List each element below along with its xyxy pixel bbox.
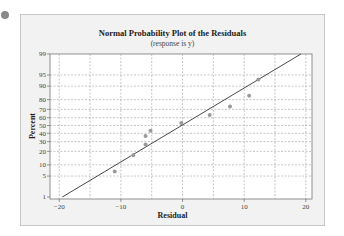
data-point	[144, 143, 148, 147]
y-tick-label: 60	[39, 114, 47, 122]
data-point	[208, 113, 212, 117]
y-tick-label: 1	[43, 193, 47, 201]
y-tick-label: 50	[39, 122, 47, 130]
x-tick-label: −20	[54, 203, 65, 211]
data-point	[113, 170, 117, 174]
data-point	[131, 153, 135, 157]
data-point	[179, 121, 183, 125]
x-tick-label: 0	[181, 203, 185, 211]
y-tick-label: 20	[39, 148, 47, 156]
plot-background	[50, 54, 312, 199]
data-point	[144, 134, 148, 138]
x-tick-label: 20	[302, 203, 310, 211]
y-tick-label: 90	[39, 82, 47, 90]
plot-area: 151020304050607080909599−20−1001020	[0, 0, 344, 236]
y-tick-label: 99	[39, 50, 47, 58]
data-point	[228, 104, 232, 108]
x-tick-label: 10	[241, 203, 249, 211]
y-tick-label: 30	[39, 138, 47, 146]
data-point	[256, 77, 260, 81]
y-tick-label: 40	[39, 130, 47, 138]
y-tick-label: 10	[39, 161, 47, 169]
y-tick-label: 5	[43, 172, 47, 180]
data-point	[148, 129, 152, 133]
y-tick-label: 95	[39, 71, 47, 79]
y-tick-label: 80	[39, 96, 47, 104]
data-point	[247, 94, 251, 98]
y-tick-label: 70	[39, 106, 47, 114]
x-tick-label: −10	[115, 203, 126, 211]
